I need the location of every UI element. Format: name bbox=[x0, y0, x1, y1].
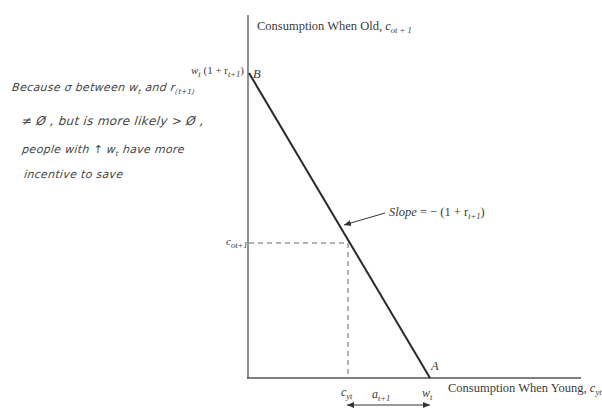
budget-line bbox=[249, 73, 430, 378]
y-axis-label: Consumption When Old, cot + 1 bbox=[257, 20, 412, 35]
c-old-sub: ot+1 bbox=[231, 240, 248, 250]
handwritten-note-line-1: Because σ between wt and r(t+1) bbox=[11, 82, 196, 96]
slope-prefix: Slope bbox=[389, 205, 417, 219]
c-young-tick-label: cyt bbox=[341, 386, 352, 401]
point-a-label: A bbox=[431, 360, 439, 373]
slope-annotation: Slope = − (1 + rt+1) bbox=[389, 206, 485, 221]
c-young-sub: yt bbox=[346, 391, 352, 401]
x-axis-label-text: Consumption When Young, bbox=[448, 381, 590, 395]
wage-sub: t bbox=[430, 392, 432, 402]
c-old-tick-label: cot+1 bbox=[226, 236, 248, 250]
savings-label: at+1 bbox=[372, 388, 390, 403]
intercept-r-sub: t+1 bbox=[228, 69, 240, 79]
note-line1-text: Because σ between w bbox=[11, 81, 139, 94]
intercept-rest: (1 + r bbox=[201, 64, 228, 76]
handwritten-note-line-4: incentive to save bbox=[23, 169, 124, 180]
slope-arrow bbox=[344, 213, 385, 225]
note-line3-rest: have more bbox=[118, 143, 185, 156]
slope-sub: t+1 bbox=[468, 211, 480, 221]
wage-var: w bbox=[422, 386, 430, 400]
handwritten-note-line-2: ≠ Ø , but is more likely > Ø , bbox=[21, 115, 205, 127]
note-line3-text: people with ↑ w bbox=[21, 143, 116, 156]
x-axis-label-sub: yt bbox=[595, 387, 601, 397]
y-axis-label-sub: ot + 1 bbox=[391, 25, 412, 35]
intercept-close: ) bbox=[240, 64, 244, 76]
slope-close: ) bbox=[481, 205, 485, 219]
note-line1-rest: and r bbox=[141, 81, 176, 94]
wage-tick-label: wt bbox=[422, 387, 432, 402]
x-axis-label: Consumption When Young, cyt bbox=[448, 382, 602, 397]
savings-sub: t+1 bbox=[378, 393, 390, 403]
note-line1-rest-sub: (t+1) bbox=[175, 88, 196, 96]
point-b-label: B bbox=[253, 68, 261, 81]
handwritten-note-line-3: people with ↑ wt have more bbox=[21, 144, 185, 158]
slope-eq: = − (1 + r bbox=[417, 205, 468, 219]
y-intercept-label: wt (1 + rt+1) bbox=[191, 65, 244, 79]
y-axis-label-text: Consumption When Old, bbox=[257, 19, 385, 33]
